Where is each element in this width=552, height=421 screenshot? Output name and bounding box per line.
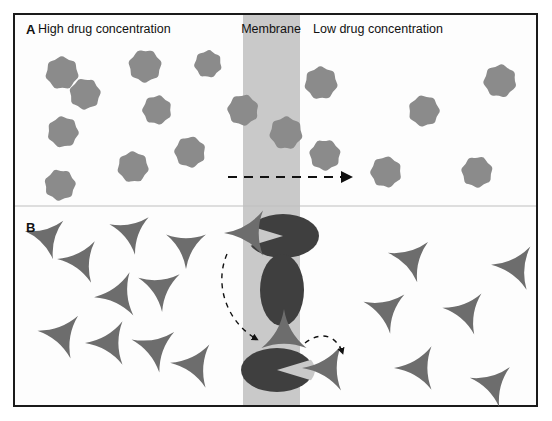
transporter-middle-rotating bbox=[260, 254, 304, 326]
panel-a-letter: A bbox=[26, 22, 36, 37]
panel-a-low-concentration-label: Low drug concentration bbox=[313, 22, 443, 36]
membrane-band bbox=[243, 15, 300, 405]
membrane-label: Membrane bbox=[241, 22, 301, 36]
panel-b-letter: B bbox=[26, 220, 35, 235]
panel-a-high-concentration-label: High drug concentration bbox=[38, 22, 171, 36]
drug-transport-diagram: A High drug concentration Membrane Low d… bbox=[0, 0, 552, 421]
